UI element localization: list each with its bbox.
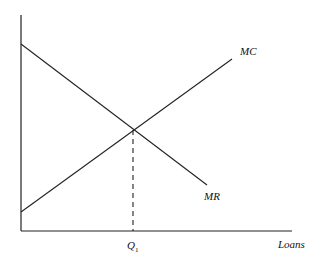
q-subscript: 1: [135, 246, 139, 254]
q-label: Q: [127, 239, 135, 251]
q1-label: Q1: [127, 239, 138, 254]
mr-label: MR: [204, 190, 220, 202]
mc-label: MC: [240, 45, 257, 57]
diagram-canvas: [0, 0, 317, 263]
mr-curve: [21, 44, 207, 185]
mc-curve: [21, 59, 232, 212]
x-axis-label: Loans: [278, 238, 305, 250]
